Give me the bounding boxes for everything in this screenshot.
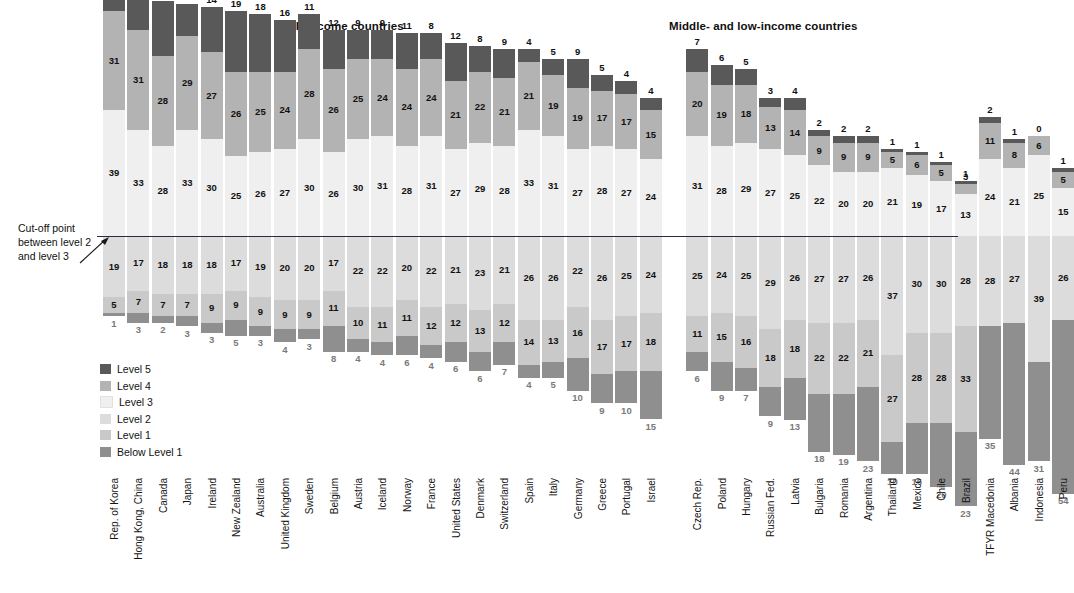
bar-segment: 18 xyxy=(152,236,174,294)
segment-value-label: 28 xyxy=(152,96,174,106)
segment-value-label: 39 xyxy=(1028,294,1050,304)
bar-segment: 26 xyxy=(323,69,345,153)
segment-value-label: 10 xyxy=(615,406,637,416)
segment-value-label: 33 xyxy=(127,178,149,188)
bar-segment: 3 xyxy=(298,329,320,339)
bar-segment: 22 xyxy=(833,323,855,394)
cutoff-annotation-line1: Cut-off point xyxy=(18,222,104,236)
bar-segment: 26 xyxy=(518,236,540,320)
bar-segment: 3 xyxy=(759,98,781,108)
segment-value-label: 26 xyxy=(857,273,879,283)
bar-italy: 5193126135 xyxy=(542,59,564,378)
bar-segment: 35 xyxy=(979,326,1001,439)
segment-value-label: 1 xyxy=(906,140,928,150)
segment-value-label: 22 xyxy=(347,267,369,277)
segment-value-label: 18 xyxy=(249,2,271,12)
bar-segment: 17 xyxy=(127,236,149,291)
bar-segment: 11 xyxy=(396,300,418,335)
segment-value-label: 25 xyxy=(686,271,708,281)
bar-segment: 22 xyxy=(371,236,393,307)
bar-segment: 5 xyxy=(735,69,757,85)
bar-segment: 28 xyxy=(396,146,418,236)
bar-segment: 9 xyxy=(225,291,247,320)
segment-value-label: 9 xyxy=(833,152,855,162)
category-label: Norway xyxy=(396,478,418,588)
bar-segment: 28 xyxy=(906,333,928,423)
segment-value-label: 7 xyxy=(152,300,174,310)
bar-segment: 16 xyxy=(735,316,757,368)
bar-belgium: 12262617118 xyxy=(323,30,345,352)
bar-segment: 54 xyxy=(1052,320,1074,494)
segment-value-label: 27 xyxy=(1003,275,1025,285)
segment-value-label: 13 xyxy=(955,210,977,220)
segment-value-label: 26 xyxy=(784,273,806,283)
bar-segment: 21 xyxy=(493,78,515,146)
segment-value-label: 7 xyxy=(176,300,198,310)
bar-segment: 23 xyxy=(857,387,879,461)
segment-value-label: 18 xyxy=(735,109,757,119)
bar-norway: 11242820116 xyxy=(396,33,418,355)
bar-segment: 19 xyxy=(711,85,733,146)
bar-segment: 39 xyxy=(1028,236,1050,362)
segment-value-label: 4 xyxy=(274,345,296,355)
bar-segment: 10 xyxy=(615,371,637,403)
category-label: Hong Kong, China xyxy=(127,478,149,588)
bar-bulgaria: 2922272218 xyxy=(808,130,830,452)
bar-segment: 29 xyxy=(735,143,757,236)
segment-value-label: 20 xyxy=(833,199,855,209)
segment-value-label: 25 xyxy=(347,94,369,104)
bar-segment: 19 xyxy=(906,175,928,236)
legend-item: Level 1 xyxy=(100,427,182,444)
segment-value-label: 33 xyxy=(176,178,198,188)
bar-segment: 8 xyxy=(420,33,442,59)
bar-segment: 33 xyxy=(955,326,977,432)
bar-segment: 18 xyxy=(201,236,223,294)
segment-value-label: 26 xyxy=(542,273,564,283)
bar-segment: 3 xyxy=(127,313,149,323)
bar-segment: 9 xyxy=(371,30,393,59)
segment-value-label: 16 xyxy=(567,328,589,338)
segment-value-label: 2 xyxy=(979,105,1001,115)
bar-segment: 1 xyxy=(103,313,125,316)
bar-segment: 31 xyxy=(127,30,149,130)
bar-segment: 25 xyxy=(249,72,271,153)
segment-value-label: 25 xyxy=(784,191,806,201)
bar-segment: 24 xyxy=(711,236,733,313)
bar-segment: 28 xyxy=(591,146,613,236)
bar-segment: 18 xyxy=(759,329,781,387)
segment-value-label: 20 xyxy=(857,199,879,209)
bar-segment: 11 xyxy=(396,33,418,68)
category-label: Iceland xyxy=(371,478,393,588)
bar-france: 8243122124 xyxy=(420,33,442,358)
segment-value-label: 1 xyxy=(103,319,125,329)
segment-value-label: 5 xyxy=(225,338,247,348)
category-label: Bulgaria xyxy=(808,478,830,588)
segment-value-label: 24 xyxy=(979,193,1001,203)
segment-value-label: 2 xyxy=(833,124,855,134)
segment-value-label: 9 xyxy=(347,18,369,28)
bar-segment: 31 xyxy=(1028,362,1050,462)
segment-value-label: 4 xyxy=(615,69,637,79)
bar-segment: 6 xyxy=(906,155,928,174)
segment-value-label: 27 xyxy=(274,188,296,198)
bar-segment: 4 xyxy=(347,339,369,352)
category-label: New Zealand xyxy=(225,478,247,588)
bar-hong-kong-china: 1031331773 xyxy=(127,0,149,323)
bar-canada: 1728281872 xyxy=(152,1,174,323)
bar-segment: 25 xyxy=(784,155,806,236)
bar-segment: 19 xyxy=(542,75,564,136)
segment-value-label: 21 xyxy=(1003,197,1025,207)
segment-value-label: 15 xyxy=(711,333,733,343)
bar-segment: 5 xyxy=(103,297,125,313)
segment-value-label: 29 xyxy=(735,185,757,195)
category-label: Italy xyxy=(542,478,564,588)
segment-value-label: 10 xyxy=(176,0,198,2)
segment-value-label: 7 xyxy=(735,393,757,403)
segment-value-label: 19 xyxy=(906,201,928,211)
segment-value-label: 21 xyxy=(518,91,540,101)
segment-value-label: 19 xyxy=(711,110,733,120)
segment-value-label: 4 xyxy=(420,361,442,371)
legend-swatch xyxy=(100,414,111,424)
segment-value-label: 19 xyxy=(225,0,247,8)
segment-value-label: 30 xyxy=(930,280,952,290)
